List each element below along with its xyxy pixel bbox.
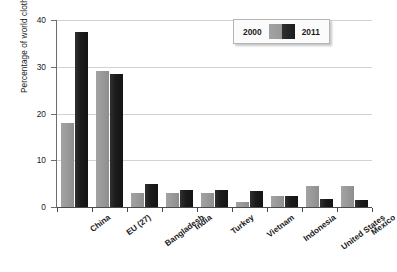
x-tick-mark bbox=[232, 208, 233, 212]
bar-group bbox=[127, 184, 162, 207]
bar-group bbox=[337, 186, 372, 207]
legend-swatch-2000 bbox=[269, 24, 282, 39]
bar-2011-vietnam bbox=[250, 191, 263, 207]
legend-swatch-2011 bbox=[282, 24, 295, 39]
y-tick-label: 0 bbox=[16, 202, 46, 212]
bar-2011-bangladesh bbox=[145, 184, 158, 207]
bar-2000-china bbox=[61, 123, 74, 207]
bar-2000-turkey bbox=[201, 193, 214, 207]
x-tick-mark bbox=[267, 208, 268, 212]
legend-label-2011: 2011 bbox=[302, 27, 320, 37]
legend-swatches bbox=[269, 24, 295, 39]
y-tick-label: 30 bbox=[16, 62, 46, 72]
x-tick-mark bbox=[92, 208, 93, 212]
bar-group bbox=[162, 190, 197, 207]
bar-2011-china bbox=[75, 32, 88, 207]
y-tick-label: 40 bbox=[16, 15, 46, 25]
bar-2011-united-states bbox=[320, 199, 333, 207]
bar-group bbox=[197, 190, 232, 207]
x-tick-mark bbox=[302, 208, 303, 212]
bar-2011-indonesia bbox=[285, 196, 298, 207]
bar-2000-vietnam bbox=[236, 202, 249, 207]
bar-group bbox=[267, 196, 302, 207]
x-tick-mark bbox=[197, 208, 198, 212]
plot-area bbox=[57, 20, 372, 207]
bar-group bbox=[302, 186, 337, 207]
bar-group bbox=[92, 71, 127, 207]
x-axis-line bbox=[56, 207, 372, 208]
x-label-china: China bbox=[89, 213, 113, 234]
x-label-eu-27: EU (27) bbox=[125, 213, 153, 237]
x-label-indonesia: Indonesia bbox=[302, 213, 338, 243]
x-tick-mark bbox=[162, 208, 163, 212]
gridline bbox=[57, 67, 372, 68]
x-tick-mark bbox=[57, 208, 58, 212]
bar-2000-bangladesh bbox=[131, 193, 144, 207]
bar-2000-mexico bbox=[341, 186, 354, 207]
chart-legend: 2000 2011 bbox=[233, 19, 330, 44]
bar-group bbox=[57, 32, 92, 207]
x-label-vietnam: Vietnam bbox=[266, 213, 297, 239]
bar-2000-india bbox=[166, 193, 179, 207]
x-tick-mark bbox=[337, 208, 338, 212]
bar-2000-united-states bbox=[306, 186, 319, 207]
bar-group bbox=[232, 191, 267, 207]
x-tick-mark bbox=[372, 208, 373, 212]
y-tick-label: 10 bbox=[16, 155, 46, 165]
legend-label-2000: 2000 bbox=[243, 27, 262, 37]
bar-2011-india bbox=[180, 190, 193, 207]
bar-2000-indonesia bbox=[271, 196, 284, 207]
bar-2011-mexico bbox=[355, 200, 368, 207]
bar-2011-turkey bbox=[215, 190, 228, 207]
bar-2000-eu-27 bbox=[96, 71, 109, 207]
y-tick-label: 20 bbox=[16, 109, 46, 119]
x-tick-mark bbox=[127, 208, 128, 212]
bar-2011-eu-27 bbox=[110, 74, 123, 207]
x-label-turkey: Turkey bbox=[230, 213, 256, 236]
